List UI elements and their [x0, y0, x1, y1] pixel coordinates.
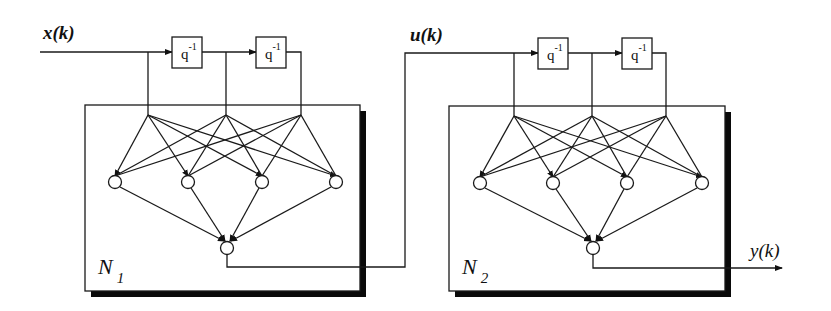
n1-hidden-node-4: [330, 176, 343, 189]
output-signal-label: y(k): [750, 240, 780, 262]
n1-output-node: [221, 242, 234, 255]
n1-hidden-node-3: [256, 176, 269, 189]
network-n1-label: N1: [98, 254, 120, 283]
network-n2-box: [449, 106, 725, 291]
input-signal-label: x(k): [43, 22, 75, 44]
network-n1-box: [85, 105, 360, 291]
n1-hidden-node-2: [182, 176, 195, 189]
network-n2-label: N2: [462, 254, 484, 283]
n2-hidden-node-4: [696, 177, 709, 190]
n1-hidden-node-1: [109, 176, 122, 189]
intermediate-signal-label: u(k): [410, 24, 443, 46]
n2-output-node: [587, 242, 600, 255]
cascaded-neural-network-diagram: q-1 q-1 q-1 q-1: [0, 0, 831, 311]
n2-hidden-node-3: [621, 177, 634, 190]
network-n2: [449, 38, 782, 297]
n2-hidden-node-1: [474, 177, 487, 190]
n2-hidden-node-2: [547, 177, 560, 190]
